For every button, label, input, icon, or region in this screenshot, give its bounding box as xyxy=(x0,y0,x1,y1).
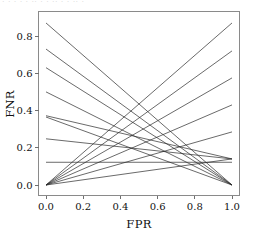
y-tick-label: 0.2 xyxy=(17,142,33,153)
fpr-fnr-line-chart: 0.00.20.40.60.81.0 0.00.20.40.60.8 FPR F… xyxy=(0,0,253,238)
x-tick-label: 1.0 xyxy=(224,201,240,212)
data-line xyxy=(46,78,232,185)
data-line xyxy=(46,132,232,185)
y-tick-label: 0.4 xyxy=(17,105,33,116)
x-tick-label: 0.2 xyxy=(75,201,91,212)
x-axis-tickmarks xyxy=(46,196,232,200)
data-line xyxy=(46,68,232,185)
y-axis-tickmarks xyxy=(35,36,39,185)
x-axis-title: FPR xyxy=(126,217,151,231)
data-lines-group xyxy=(46,23,232,185)
y-tick-label: 0.8 xyxy=(17,31,33,42)
y-axis-title: FNR xyxy=(3,90,17,118)
y-tick-label: 0.6 xyxy=(17,68,33,79)
x-tick-label: 0.0 xyxy=(38,201,54,212)
figure-container: 0.00.20.40.60.81.0 0.00.20.40.60.8 FPR F… xyxy=(0,0,253,238)
data-line xyxy=(46,117,232,185)
x-axis-tick-labels: 0.00.20.40.60.81.0 xyxy=(38,201,240,212)
data-line xyxy=(46,139,232,159)
x-tick-label: 0.4 xyxy=(112,201,128,212)
x-tick-label: 0.6 xyxy=(150,201,166,212)
y-tick-label: 0.0 xyxy=(17,180,33,191)
data-line xyxy=(46,159,232,185)
x-tick-label: 0.8 xyxy=(187,201,203,212)
y-axis-tick-labels: 0.00.20.40.60.8 xyxy=(17,31,33,191)
data-line xyxy=(46,92,232,185)
data-line xyxy=(46,116,232,159)
